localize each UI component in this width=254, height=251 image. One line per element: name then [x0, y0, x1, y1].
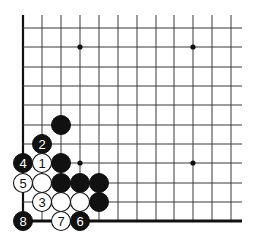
white-stone — [71, 193, 90, 212]
move-number-label: 8 — [19, 214, 26, 229]
star-point-icon — [190, 160, 195, 165]
white-stone-7: 7 — [52, 212, 71, 231]
black-stone — [90, 193, 109, 212]
star-point-icon — [190, 44, 195, 49]
move-number-label: 4 — [19, 156, 26, 171]
move-number-label: 7 — [57, 214, 64, 229]
go-board: 24153876 — [0, 0, 254, 251]
white-stone-1: 1 — [33, 154, 52, 173]
move-number-label: 3 — [38, 195, 45, 210]
move-number-label: 6 — [76, 214, 83, 229]
move-number-label: 2 — [38, 137, 45, 152]
stones: 24153876 — [14, 116, 109, 231]
black-stone-8: 8 — [14, 212, 33, 231]
white-stone — [52, 193, 71, 212]
black-stone — [90, 174, 109, 193]
black-stone-6: 6 — [71, 212, 90, 231]
black-stone-2: 2 — [33, 135, 52, 154]
black-stone — [52, 154, 71, 173]
white-stone-5: 5 — [14, 174, 33, 193]
white-stone — [33, 174, 52, 193]
black-stone-4: 4 — [14, 154, 33, 173]
move-number-label: 1 — [38, 156, 45, 171]
black-stone — [52, 174, 71, 193]
black-stone — [52, 116, 71, 135]
move-number-label: 5 — [19, 176, 26, 191]
white-stone-3: 3 — [33, 193, 52, 212]
black-stone — [71, 174, 90, 193]
star-point-icon — [77, 44, 82, 49]
star-point-icon — [77, 160, 82, 165]
